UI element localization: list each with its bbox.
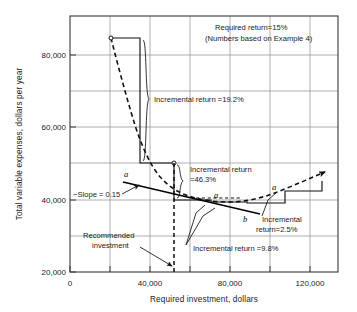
- annotation-incremental-9-8: Incremental return =9.8%: [193, 244, 279, 253]
- x-tick-label: 0: [68, 279, 73, 288]
- x-axis-title: Required investment, dollars: [150, 295, 258, 304]
- x-tick-label: 40,000: [138, 279, 163, 288]
- annotation-incremental-46-3-line2: =46.3%: [190, 175, 216, 184]
- y-tick-label: 20,000: [42, 268, 67, 277]
- investment-vs-expenses-chart: 80,000 60,000 40,000 20,000 0 40,000 80,…: [0, 0, 357, 312]
- chart-subtitle: (Numbers based on Example 4): [205, 34, 313, 43]
- annotation-incremental-2-5-line2: return=2.5%: [256, 225, 298, 234]
- x-tick-label: 80,000: [218, 279, 243, 288]
- annotation-incremental-2-5-line1: Incremental: [262, 215, 302, 224]
- y-tick-label: 60,000: [42, 123, 67, 132]
- chart-title: Required return=15%: [215, 23, 288, 32]
- tangent-endpoint-label-a: a: [124, 169, 128, 179]
- curve-start-marker: [109, 36, 113, 40]
- annotation-recommended-line1: Recommended: [83, 231, 135, 240]
- annotation-incremental-19-2: Incremental return =19.2%: [154, 95, 244, 104]
- annotation-slope: −Slope = 0.15: [73, 190, 120, 199]
- tangent-endpoint-label-b: b: [243, 214, 247, 224]
- y-tick-label: 80,000: [42, 51, 67, 60]
- y-tick-label: 40,000: [42, 196, 67, 205]
- step-marker-b: a: [272, 182, 276, 192]
- chart-background: [0, 0, 357, 312]
- y-axis-title: Total variable expenses, dollars per yea…: [15, 68, 24, 221]
- x-tick-label: 120,000: [296, 279, 325, 288]
- annotation-incremental-46-3-line1: Incremental return: [190, 165, 252, 174]
- chart-figure: 80,000 60,000 40,000 20,000 0 40,000 80,…: [0, 0, 357, 312]
- step-marker-a: a: [214, 190, 218, 200]
- annotation-recommended-line2: investment: [92, 241, 130, 250]
